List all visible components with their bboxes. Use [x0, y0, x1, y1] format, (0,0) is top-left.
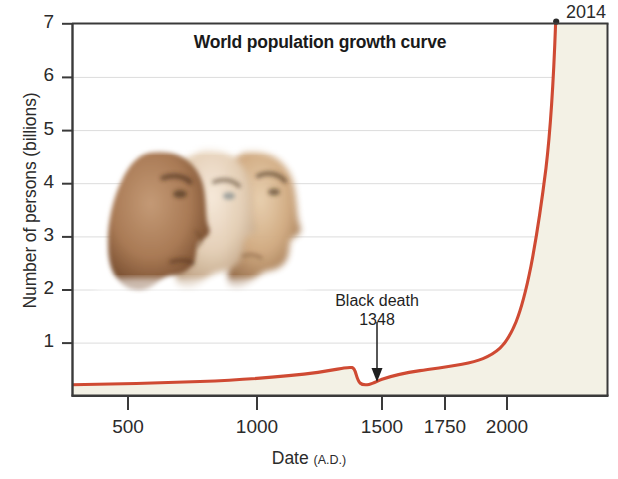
y-tick-label-7: 7: [20, 11, 54, 33]
y-tick-label-3: 3: [20, 224, 54, 246]
population-growth-chart: [0, 0, 618, 479]
endpoint-label-2014: 2014: [566, 2, 606, 23]
figure-canvas: World population growth curve 2014 Black…: [0, 0, 618, 479]
y-tick-label-5: 5: [20, 118, 54, 140]
x-axis-label-main: Date: [272, 448, 309, 468]
y-tick-label-4: 4: [20, 171, 54, 193]
black-death-annotation: Black death 1348: [317, 292, 437, 330]
y-tick-label-1: 1: [20, 330, 54, 352]
x-tick-marks: [128, 396, 507, 410]
black-death-annotation-line1: Black death: [317, 292, 437, 311]
x-tick-label-2000: 2000: [462, 416, 552, 438]
black-death-annotation-line2: 1348: [317, 311, 437, 330]
x-tick-label-1000: 1000: [212, 416, 302, 438]
chart-title: World population growth curve: [150, 32, 490, 53]
y-tick-label-6: 6: [20, 64, 54, 86]
y-tick-marks: [62, 24, 72, 343]
x-axis-label-units: (A.D.): [314, 453, 347, 467]
x-tick-label-500: 500: [88, 416, 168, 438]
x-axis-label: Date (A.D.): [0, 448, 618, 469]
y-tick-label-2: 2: [20, 277, 54, 299]
